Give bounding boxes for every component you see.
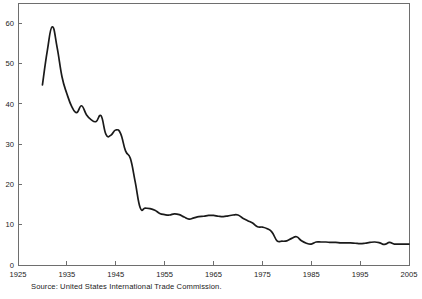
x-axis-label-1975: 1975 xyxy=(254,270,271,279)
y-axis-label-0: 0 xyxy=(10,261,14,270)
y-axis-labels: 0102030405060 xyxy=(6,19,14,270)
x-axis-label-2005: 2005 xyxy=(401,270,418,279)
tariff-line-chart: 0102030405060 19251935194519551965197519… xyxy=(0,0,422,299)
x-axis-labels: 192519351945195519651975198519952005 xyxy=(10,270,418,279)
y-axis-label-40: 40 xyxy=(6,100,14,109)
y-axis-ticks xyxy=(18,23,22,265)
x-axis-label-1945: 1945 xyxy=(107,270,124,279)
y-axis-label-30: 30 xyxy=(6,140,14,149)
x-axis-label-1995: 1995 xyxy=(352,270,369,279)
x-axis-ticks xyxy=(18,261,409,265)
y-axis-label-10: 10 xyxy=(6,220,14,229)
source-note: Source: United States International Trad… xyxy=(31,282,222,291)
x-axis-label-1965: 1965 xyxy=(205,270,222,279)
axis-frame xyxy=(18,3,409,265)
series-line-average-tariff-rate xyxy=(42,27,409,245)
x-axis-label-1935: 1935 xyxy=(58,270,75,279)
x-axis-label-1925: 1925 xyxy=(10,270,27,279)
y-axis-label-20: 20 xyxy=(6,180,14,189)
y-axis-label-60: 60 xyxy=(6,19,14,28)
x-axis-label-1985: 1985 xyxy=(303,270,320,279)
y-axis-label-50: 50 xyxy=(6,59,14,68)
data-series-group xyxy=(42,27,409,245)
chart-container: 0102030405060 19251935194519551965197519… xyxy=(0,0,422,299)
x-axis-label-1955: 1955 xyxy=(156,270,173,279)
